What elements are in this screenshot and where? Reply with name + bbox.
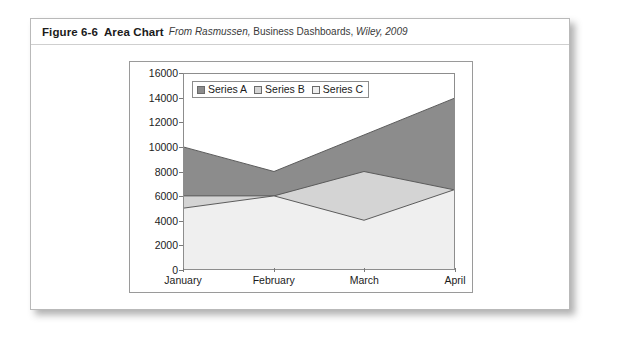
- x-axis-tick-mark: [455, 268, 456, 272]
- legend-swatch-icon: [312, 86, 320, 94]
- legend-swatch-icon: [197, 86, 205, 94]
- plot-area: [183, 73, 455, 270]
- y-axis-tick: 14000: [130, 92, 178, 104]
- chart-legend: Series ASeries BSeries C: [192, 81, 369, 98]
- figure-source-publisher: Wiley,: [356, 26, 382, 37]
- y-axis-tick-label: 6000: [155, 190, 178, 202]
- figure-source-year: 2009: [385, 26, 407, 37]
- y-axis-tick-label: 2000: [155, 239, 178, 251]
- area-chart-svg: [184, 74, 454, 269]
- y-axis-tick-label: 12000: [149, 116, 178, 128]
- y-axis-tick: 6000: [130, 190, 178, 202]
- y-axis-tick-label: 14000: [149, 92, 178, 104]
- legend-label: Series B: [265, 84, 305, 95]
- x-axis-tick-mark: [364, 268, 365, 272]
- y-axis-tick-label: 4000: [155, 215, 178, 227]
- legend-entry[interactable]: Series B: [254, 84, 305, 95]
- chart-frame: 0200040006000800010000120001400016000 Se…: [129, 61, 473, 293]
- x-axis-tick-mark: [274, 268, 275, 272]
- legend-swatch-icon: [254, 86, 262, 94]
- legend-entry[interactable]: Series A: [197, 84, 247, 95]
- y-axis-tick: 10000: [130, 141, 178, 153]
- y-axis: 0200040006000800010000120001400016000: [130, 73, 178, 270]
- figure-source-author: From Rasmussen,: [169, 26, 251, 37]
- legend-entry[interactable]: Series C: [312, 84, 363, 95]
- figure-number: Figure 6-6: [42, 26, 98, 38]
- x-axis-tick-label: January: [164, 274, 201, 286]
- legend-label: Series A: [208, 84, 247, 95]
- x-axis-tick-label: April: [444, 274, 465, 286]
- y-axis-tick: 2000: [130, 239, 178, 251]
- x-axis-tick-label: February: [253, 274, 295, 286]
- figure-title: Area Chart: [104, 26, 164, 38]
- legend-label: Series C: [323, 84, 363, 95]
- y-axis-tick: 4000: [130, 215, 178, 227]
- figure-source-work: Business Dashboards,: [253, 26, 353, 37]
- y-axis-tick-label: 16000: [149, 67, 178, 79]
- x-axis: JanuaryFebruaryMarchApril: [183, 272, 455, 288]
- y-axis-tick: 12000: [130, 116, 178, 128]
- x-axis-tick-label: March: [350, 274, 379, 286]
- x-axis-tick-mark: [183, 268, 184, 272]
- y-axis-tick-label: 10000: [149, 141, 178, 153]
- figure-panel: Figure 6-6 Area Chart From Rasmussen, Bu…: [30, 18, 570, 310]
- figure-caption: Figure 6-6 Area Chart From Rasmussen, Bu…: [31, 19, 569, 45]
- y-axis-tick: 16000: [130, 67, 178, 79]
- y-axis-tick: 8000: [130, 166, 178, 178]
- y-axis-tick-label: 8000: [155, 166, 178, 178]
